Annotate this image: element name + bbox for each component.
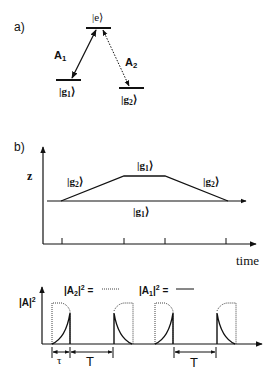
region-label-top: |g1⟩ bbox=[137, 160, 153, 173]
ground-state-1-label: |g1⟩ bbox=[59, 86, 75, 99]
pulse-2 bbox=[114, 303, 133, 344]
excited-state-label: |e⟩ bbox=[92, 12, 103, 23]
pulse-3 bbox=[155, 303, 173, 344]
transition-arrow-a1 bbox=[72, 30, 96, 78]
panel-a-label: a) bbox=[14, 21, 25, 33]
z-axis-label: z bbox=[27, 170, 32, 182]
region-label-left: |g2⟩ bbox=[67, 176, 83, 189]
time-ticks bbox=[62, 238, 226, 244]
diagram-canvas bbox=[0, 0, 277, 380]
transition-a2-label: A2 bbox=[125, 57, 137, 70]
region-label-right: |g2⟩ bbox=[203, 176, 219, 189]
panel-b-label: b) bbox=[14, 141, 25, 153]
period-label-1: T bbox=[86, 355, 94, 368]
pulse-1 bbox=[52, 303, 70, 344]
pulse-4 bbox=[217, 303, 236, 344]
pulse-plot bbox=[42, 287, 262, 358]
region-label-bottom: |g1⟩ bbox=[133, 206, 149, 219]
tau-label: τ bbox=[57, 355, 61, 366]
legend-a1: |A1|2 = bbox=[139, 284, 168, 297]
ground-state-2-label: |g2⟩ bbox=[121, 94, 137, 107]
period-label-2: T bbox=[190, 356, 198, 369]
time-axis-label: time bbox=[236, 254, 259, 267]
legend-a2: |A2|2 = bbox=[64, 284, 93, 297]
amplitude-axis-label: |A|2 bbox=[19, 296, 36, 308]
transition-a1-label: A1 bbox=[54, 50, 66, 63]
